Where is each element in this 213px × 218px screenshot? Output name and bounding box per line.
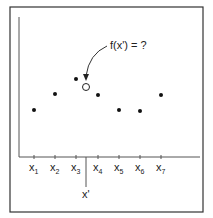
data-point-x6 — [138, 109, 142, 113]
question-label: f(x') = ? — [110, 39, 147, 51]
data-point-x3 — [74, 77, 78, 81]
data-point-x2 — [53, 92, 57, 96]
query-point-circle — [83, 84, 90, 91]
query-point-label: x' — [82, 188, 90, 200]
interpolation-diagram: f(x') = ? x1 x2 x3 x4 x5 x6 x7 x' — [0, 0, 213, 218]
data-point-x1 — [32, 108, 36, 112]
diagram-frame — [10, 7, 203, 212]
data-point-x4 — [96, 93, 100, 97]
data-point-x7 — [159, 93, 163, 97]
data-point-x5 — [117, 108, 121, 112]
